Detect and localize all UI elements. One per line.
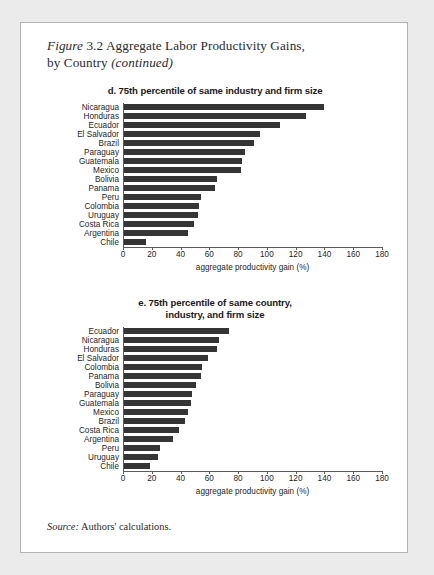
bar-track xyxy=(123,453,382,462)
bar xyxy=(123,400,191,406)
bar-row: Costa Rica xyxy=(123,426,385,435)
bar-row: Honduras xyxy=(123,112,385,121)
bar xyxy=(123,454,158,460)
bar-category-label: Panama xyxy=(89,372,120,381)
y-axis-line xyxy=(123,327,124,471)
chart-e-xaxis-label: aggregate productivity gain (%) xyxy=(123,487,382,496)
bar-row: Nicaragua xyxy=(123,336,385,345)
bar-row: Colombia xyxy=(123,202,385,211)
bar-category-label: Nicaragua xyxy=(82,336,119,345)
x-axis-tick-label: 0 xyxy=(121,474,126,483)
bar-track xyxy=(123,148,382,157)
bar-row: Bolivia xyxy=(123,175,385,184)
figure-continued-marker: (continued) xyxy=(111,55,173,70)
bar-track xyxy=(123,381,382,390)
bar-row: Paraguay xyxy=(123,148,385,157)
bar-category-label: Colombia xyxy=(84,202,119,211)
x-axis-line xyxy=(123,471,382,472)
bar xyxy=(123,104,324,110)
x-axis-tick-label: 140 xyxy=(318,474,332,483)
chart-title-line: e. 75th percentile of same country, xyxy=(138,297,292,308)
x-axis-tick-label: 140 xyxy=(318,250,332,259)
bar-track xyxy=(123,220,382,229)
bar xyxy=(123,122,280,128)
bar-row: Honduras xyxy=(123,345,385,354)
bar-row: Mexico xyxy=(123,166,385,175)
bar-category-label: Uruguay xyxy=(88,453,119,462)
bar xyxy=(123,436,173,442)
bar-row: Argentina xyxy=(123,229,385,238)
bar xyxy=(123,463,150,469)
x-axis-tick-label: 180 xyxy=(375,250,389,259)
chart-d-xaxis-label: aggregate productivity gain (%) xyxy=(123,263,382,272)
bar-row: Uruguay xyxy=(123,211,385,220)
bar-category-label: Chile xyxy=(100,462,119,471)
bar xyxy=(123,140,254,146)
bar-track xyxy=(123,408,382,417)
bar xyxy=(123,239,146,245)
figure-caption: Figure 3.2 Aggregate Labor Productivity … xyxy=(47,37,377,71)
bar-category-label: Mexico xyxy=(93,408,119,417)
bar-category-label: Guatemala xyxy=(79,157,119,166)
bar-category-label: Honduras xyxy=(83,345,119,354)
chart-d-xaxis: 020406080100120140160180 xyxy=(123,247,382,261)
bar-track xyxy=(123,417,382,426)
bar-track xyxy=(123,363,382,372)
chart-title-line: industry, and firm size xyxy=(39,309,391,321)
bar xyxy=(123,409,188,415)
x-axis-tick-label: 20 xyxy=(147,250,156,259)
bar xyxy=(123,328,229,334)
bar xyxy=(123,185,215,191)
bar-row: Uruguay xyxy=(123,453,385,462)
bar-category-label: Costa Rica xyxy=(79,426,119,435)
bar-category-label: Brazil xyxy=(99,417,119,426)
bar xyxy=(123,167,241,173)
x-axis-tick-label: 40 xyxy=(176,474,185,483)
bar xyxy=(123,149,245,155)
bar-row: El Salvador xyxy=(123,130,385,139)
figure-label: Figure xyxy=(47,38,83,53)
bar xyxy=(123,176,217,182)
figure-title-line2: by Country xyxy=(47,55,108,70)
bar-row: Brazil xyxy=(123,139,385,148)
bar-track xyxy=(123,121,382,130)
bar xyxy=(123,113,306,119)
bar-category-label: Ecuador xyxy=(89,327,120,336)
bar-track xyxy=(123,193,382,202)
bar-category-label: Paraguay xyxy=(84,148,119,157)
bar-row: Panama xyxy=(123,372,385,381)
x-axis-tick-label: 80 xyxy=(234,250,243,259)
source-text: Authors' calculations. xyxy=(81,521,171,532)
bar-row: Argentina xyxy=(123,435,385,444)
bar-track xyxy=(123,157,382,166)
bar-row: Costa Rica xyxy=(123,220,385,229)
figure-title-main: Aggregate Labor Productivity Gains, xyxy=(106,38,305,53)
bar xyxy=(123,382,196,388)
bar-row: Panama xyxy=(123,184,385,193)
bar xyxy=(123,427,179,433)
chart-title-line: d. 75th percentile of same industry and … xyxy=(108,85,323,96)
x-axis-tick-label: 180 xyxy=(375,474,389,483)
source-label: Source: xyxy=(47,521,79,532)
chart-d-plot: NicaraguaHondurasEcuadorEl SalvadorBrazi… xyxy=(123,103,385,272)
bar-track xyxy=(123,175,382,184)
bar-track xyxy=(123,112,382,121)
chart-d-bars: NicaraguaHondurasEcuadorEl SalvadorBrazi… xyxy=(123,103,385,247)
bar-category-label: Ecuador xyxy=(89,121,120,130)
bar-row: Ecuador xyxy=(123,327,385,336)
x-axis-line xyxy=(123,247,382,248)
x-axis-tick-label: 60 xyxy=(205,474,214,483)
bar-category-label: Argentina xyxy=(84,229,119,238)
bar-row: Chile xyxy=(123,462,385,471)
bar xyxy=(123,158,242,164)
x-axis-tick-label: 40 xyxy=(176,250,185,259)
bar-track xyxy=(123,229,382,238)
bar-track xyxy=(123,202,382,211)
chart-e-plot: EcuadorNicaraguaHondurasEl SalvadorColom… xyxy=(123,327,385,496)
bar xyxy=(123,373,201,379)
y-axis-line xyxy=(123,103,124,247)
bar xyxy=(123,230,188,236)
bar-category-label: Bolivia xyxy=(95,175,119,184)
bar-category-label: Panama xyxy=(89,184,120,193)
figure-number: 3.2 xyxy=(86,38,103,53)
